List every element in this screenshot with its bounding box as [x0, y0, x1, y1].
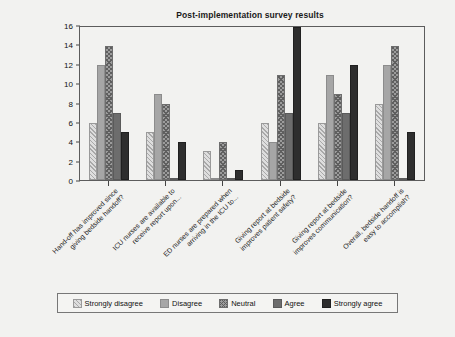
legend-label: Strongly agree	[334, 299, 383, 308]
bar	[399, 178, 407, 180]
bar	[285, 113, 293, 180]
bar	[227, 178, 235, 180]
plot-area	[79, 26, 425, 181]
bar	[269, 142, 277, 180]
bar	[113, 113, 121, 180]
bar	[97, 65, 105, 180]
bar	[203, 151, 211, 180]
bar	[350, 65, 358, 180]
bar-group	[80, 27, 137, 180]
bar-group	[309, 27, 366, 180]
bar	[407, 132, 415, 180]
y-tick-label: 12	[64, 60, 73, 69]
bar	[89, 123, 97, 180]
legend-item[interactable]: Neutral	[219, 299, 255, 308]
legend-item[interactable]: Disagree	[160, 299, 202, 308]
y-tick-label: 10	[64, 80, 73, 89]
y-tick-label: 2	[69, 157, 73, 166]
bar-group	[137, 27, 194, 180]
y-tick-label: 6	[69, 118, 73, 127]
x-tick-mark	[165, 181, 166, 186]
legend-swatch-icon	[273, 299, 282, 308]
legend-label: Neutral	[231, 299, 255, 308]
bar	[146, 132, 154, 180]
y-tick-label: 16	[64, 22, 73, 31]
bar	[391, 46, 399, 180]
legend-item[interactable]: Agree	[273, 299, 305, 308]
chart-title: Post-implementation survey results	[60, 10, 440, 20]
bar	[326, 75, 334, 180]
legend-item[interactable]: Strongly disagree	[73, 299, 143, 308]
bar-group	[252, 27, 309, 180]
bar	[318, 123, 326, 180]
bar-group	[195, 27, 252, 180]
bar	[105, 46, 113, 180]
x-tick-mark	[280, 181, 281, 186]
y-tick-label: 8	[69, 99, 73, 108]
bar	[154, 94, 162, 180]
legend-label: Strongly disagree	[85, 299, 143, 308]
bar	[277, 75, 285, 180]
x-tick-mark	[222, 181, 223, 186]
legend-swatch-icon	[322, 299, 331, 308]
y-tick-label: 14	[64, 41, 73, 50]
x-tick-mark	[394, 181, 395, 186]
bar	[121, 132, 129, 180]
bar-group	[367, 27, 424, 180]
chart-legend: Strongly disagreeDisagreeNeutralAgreeStr…	[57, 293, 398, 313]
x-tick-mark	[108, 181, 109, 186]
legend-swatch-icon	[219, 299, 228, 308]
bar	[178, 142, 186, 180]
x-axis-labels: Hand-off has improved since giving bedsi…	[0, 181, 455, 286]
legend-swatch-icon	[73, 299, 82, 308]
survey-bar-chart: Post-implementation survey results 02468…	[0, 0, 455, 337]
y-tick-label: 4	[69, 138, 73, 147]
bar	[342, 113, 350, 180]
x-tick-mark	[337, 181, 338, 186]
bar	[375, 104, 383, 181]
y-axis: 0246810121416	[50, 20, 80, 187]
bar	[334, 94, 342, 180]
legend-label: Disagree	[172, 299, 202, 308]
bar	[170, 178, 178, 180]
bar	[211, 178, 219, 180]
bar	[293, 27, 301, 180]
legend-label: Agree	[285, 299, 305, 308]
bar	[383, 65, 391, 180]
legend-item[interactable]: Strongly agree	[322, 299, 383, 308]
bar	[261, 123, 269, 180]
legend-swatch-icon	[160, 299, 169, 308]
bar	[219, 142, 227, 180]
bar	[162, 104, 170, 181]
plot-inner	[80, 27, 424, 180]
bar	[235, 170, 243, 180]
